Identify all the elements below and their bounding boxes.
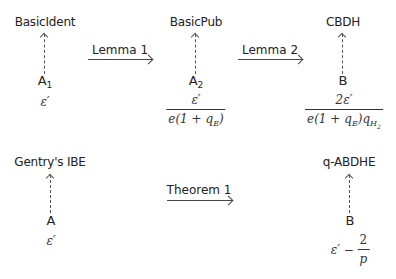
- scheme-cbdh: CBDH: [326, 15, 360, 29]
- advantage-fraction: ε′ e(1 + qE): [166, 93, 225, 128]
- adversary-a2: A2: [189, 73, 204, 90]
- advantage-b-bottom: ε′ − 2 p: [331, 233, 370, 266]
- fraction-numerator: ε′: [189, 93, 202, 109]
- scheme-basicpub: BasicPub: [170, 15, 222, 29]
- fraction-denominator: e(1 + qE): [166, 109, 225, 128]
- scheme-q-abdhe: q-ABDHE: [323, 155, 376, 169]
- adversary-letter: A: [189, 73, 198, 88]
- adversary-b-top: B: [339, 73, 348, 88]
- scheme-gentrys-ibe: Gentry's IBE: [14, 155, 85, 169]
- adversary-a-bottom: A: [47, 213, 56, 228]
- advantage-a2: ε′ e(1 + qE): [166, 93, 225, 128]
- adversary-subscript: 2: [198, 80, 204, 90]
- reduction-arrow-theorem-1: [167, 200, 232, 201]
- dashed-arrow-basicident: [44, 34, 45, 74]
- dashed-arrow-q-abdhe: [349, 175, 350, 213]
- advantage-b-top: 2ε′ e(1 + qE)qH2: [305, 93, 383, 130]
- reduction-arrow-lemma-1: [88, 59, 152, 60]
- dashed-arrow-gentrys-ibe: [50, 175, 51, 213]
- fraction-numerator: 2: [358, 233, 370, 249]
- advantage-a-bottom: ε′: [46, 234, 55, 248]
- dashed-arrow-cbdh: [342, 34, 343, 74]
- adversary-b-bottom: B: [346, 213, 355, 228]
- advantage-a1: ε′: [40, 95, 49, 109]
- reduction-lemma-1-label: Lemma 1: [92, 43, 148, 57]
- advantage-prefix: ε′ −: [331, 243, 354, 257]
- reduction-theorem-1-label: Theorem 1: [167, 183, 232, 197]
- reduction-lemma-2-label: Lemma 2: [242, 43, 298, 57]
- advantage-fraction: 2ε′ e(1 + qE)qH2: [305, 93, 383, 130]
- reduction-arrow-lemma-2: [238, 59, 302, 60]
- dashed-arrow-basicpub: [195, 34, 196, 74]
- fraction-numerator: 2ε′: [334, 93, 355, 109]
- fraction-denominator: p: [358, 249, 370, 266]
- scheme-basicident: BasicIdent: [15, 15, 76, 29]
- adversary-a1: A1: [38, 73, 53, 90]
- adversary-subscript: 1: [47, 80, 53, 90]
- adversary-letter: A: [38, 73, 47, 88]
- fraction-denominator: e(1 + qE)qH2: [305, 109, 383, 130]
- advantage-fraction: 2 p: [358, 233, 370, 266]
